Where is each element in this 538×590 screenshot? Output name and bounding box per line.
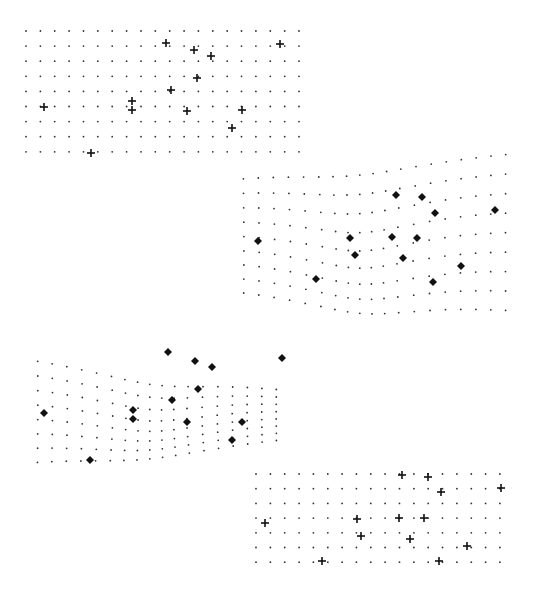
- grid-point: [321, 246, 323, 248]
- grid-point: [226, 121, 228, 123]
- grid-point: [66, 421, 68, 423]
- grid-point: [161, 420, 163, 422]
- grid-point: [341, 517, 343, 519]
- grid-point: [255, 151, 257, 153]
- grid-point: [173, 429, 175, 431]
- grid-point: [284, 106, 286, 108]
- panel-bottom-right: [255, 471, 505, 565]
- grid-point: [243, 292, 245, 294]
- grid-point: [270, 517, 272, 519]
- grid-point: [475, 290, 477, 292]
- grid-point: [183, 60, 185, 62]
- grid-point: [505, 173, 507, 175]
- grid-point: [25, 60, 27, 62]
- grid-point: [40, 136, 42, 138]
- grid-point: [37, 404, 39, 406]
- grid-point: [97, 400, 99, 402]
- grid-point: [428, 275, 430, 277]
- grid-point: [284, 151, 286, 153]
- grid-point: [97, 75, 99, 77]
- plus-marker-icon: [353, 515, 361, 523]
- plus-marker-icon: [463, 542, 471, 550]
- grid-point: [356, 547, 358, 549]
- plus-marker-icon: [357, 532, 365, 540]
- grid-point: [111, 91, 113, 93]
- grid-point: [243, 264, 245, 266]
- grid-point: [40, 60, 42, 62]
- grid-point: [313, 488, 315, 490]
- grid-point: [246, 395, 248, 397]
- grid-point: [226, 136, 228, 138]
- grid-point: [81, 423, 83, 425]
- grid-dots: [37, 360, 278, 463]
- grid-point: [246, 428, 248, 430]
- grid-point: [341, 561, 343, 563]
- grid-point: [399, 188, 401, 190]
- grid-point: [247, 435, 249, 437]
- grid-point: [68, 136, 70, 138]
- grid-point: [298, 488, 300, 490]
- grid-point: [112, 427, 114, 429]
- grid-point: [427, 547, 429, 549]
- plus-marker-icon: [183, 107, 191, 115]
- grid-point: [173, 409, 175, 411]
- grid-point: [284, 45, 286, 47]
- plus-marker-icon: [424, 473, 432, 481]
- plus-marker-icon: [261, 519, 269, 527]
- grid-point: [212, 106, 214, 108]
- grid-point: [412, 260, 414, 262]
- grid-point: [284, 91, 286, 93]
- grid-point: [255, 45, 257, 47]
- grid-point: [255, 75, 257, 77]
- grid-point: [258, 222, 260, 224]
- grid-point: [83, 60, 85, 62]
- grid-point: [111, 438, 113, 440]
- grid-point: [284, 517, 286, 519]
- grid-point: [460, 254, 462, 256]
- grid-point: [169, 45, 171, 47]
- grid-point: [269, 151, 271, 153]
- diamond-marker-icon: [457, 262, 465, 270]
- grid-point: [359, 174, 361, 176]
- grid-point: [335, 265, 337, 267]
- grid-point: [359, 267, 361, 269]
- grid-point: [212, 45, 214, 47]
- grid-point: [232, 386, 234, 388]
- grid-point: [212, 136, 214, 138]
- grid-point: [298, 473, 300, 475]
- plus-marker-icon: [395, 514, 403, 522]
- grid-point: [161, 430, 163, 432]
- diamond-marker-icon: [399, 254, 407, 262]
- grid-point: [384, 547, 386, 549]
- grid-point: [25, 30, 27, 32]
- grid-point: [273, 297, 275, 299]
- grid-point: [126, 75, 128, 77]
- grid-point: [187, 386, 189, 388]
- grid-point: [68, 151, 70, 153]
- plus-marker-icon: [318, 557, 326, 565]
- grid-point: [334, 309, 336, 311]
- grid-point: [83, 151, 85, 153]
- landmark-figure: [0, 0, 538, 590]
- panel-top-right: [243, 154, 507, 315]
- grid-point: [261, 441, 263, 443]
- grid-point: [258, 192, 260, 194]
- grid-point: [83, 45, 85, 47]
- grid-point: [149, 458, 151, 460]
- grid-point: [112, 403, 114, 405]
- grid-point: [136, 459, 138, 461]
- grid-point: [137, 440, 139, 442]
- grid-point: [298, 91, 300, 93]
- grid-point: [371, 298, 373, 300]
- grid-point: [217, 423, 219, 425]
- grid-point: [183, 136, 185, 138]
- grid-point: [428, 239, 430, 241]
- grid-point: [258, 266, 260, 268]
- grid-point: [25, 151, 27, 153]
- grid-point: [371, 212, 373, 214]
- grid-point: [306, 259, 308, 261]
- grid-point: [112, 415, 114, 417]
- grid-point: [270, 532, 272, 534]
- grid-point: [212, 60, 214, 62]
- grid-point: [442, 532, 444, 534]
